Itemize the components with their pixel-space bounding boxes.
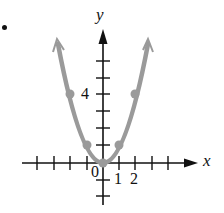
y-tick-label-4: 4 xyxy=(81,86,89,102)
point-neg1-1 xyxy=(83,141,92,150)
x-axis-label: x xyxy=(203,152,211,169)
x-tick-label-1: 1 xyxy=(114,171,122,187)
point-1-1 xyxy=(115,141,124,150)
parabola-graph xyxy=(0,0,224,213)
point-2-4 xyxy=(131,90,140,99)
x-tick-label-2: 2 xyxy=(130,171,138,187)
x-axis-arrow-icon xyxy=(184,159,198,168)
point-origin xyxy=(99,159,108,168)
y-axis-label: y xyxy=(96,6,104,23)
y-axis-arrow-icon xyxy=(99,29,108,44)
x-tick-label-0: 0 xyxy=(91,164,99,180)
point-neg2-4 xyxy=(66,90,75,99)
